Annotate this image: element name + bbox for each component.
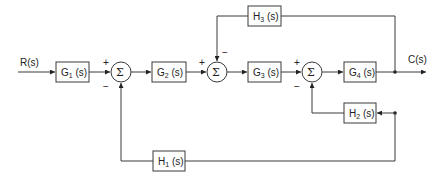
input-signal-label: R(s) — [20, 57, 39, 68]
svg-text:Σ: Σ — [116, 66, 124, 79]
block-g3: G3 (s) — [248, 62, 281, 82]
block-h1: H1 (s) — [153, 151, 185, 171]
svg-text:H3 (s): H3 (s) — [253, 11, 279, 23]
summing-junction-3: Σ + − — [294, 57, 322, 92]
svg-text:G4 (s): G4 (s) — [349, 67, 375, 79]
svg-text:+: + — [199, 57, 205, 68]
svg-text:H2 (s): H2 (s) — [349, 108, 375, 120]
svg-text:G1 (s): G1 (s) — [61, 67, 87, 79]
svg-text:+: + — [103, 57, 109, 68]
svg-text:+: + — [294, 57, 300, 68]
svg-text:−: − — [222, 47, 228, 58]
svg-text:Σ: Σ — [307, 66, 315, 79]
block-g4: G4 (s) — [344, 62, 376, 82]
block-g2: G2 (s) — [152, 62, 186, 82]
svg-text:−: − — [294, 81, 300, 92]
summing-junction-1: Σ + − — [103, 57, 131, 92]
output-signal-label: C(s) — [408, 54, 427, 65]
svg-text:Σ: Σ — [212, 66, 220, 79]
svg-text:−: − — [103, 81, 109, 92]
svg-text:G3 (s): G3 (s) — [253, 67, 279, 79]
block-h3: H3 (s) — [248, 6, 281, 26]
block-diagram: R(s) G1 (s) Σ + − G2 (s) Σ + − G3 (s) Σ … — [0, 0, 441, 181]
block-g1: G1 (s) — [56, 62, 89, 82]
svg-text:H1 (s): H1 (s) — [158, 156, 184, 168]
block-h2: H2 (s) — [344, 103, 376, 123]
svg-text:G2 (s): G2 (s) — [157, 67, 183, 79]
summing-junction-2: Σ + − — [199, 47, 228, 82]
